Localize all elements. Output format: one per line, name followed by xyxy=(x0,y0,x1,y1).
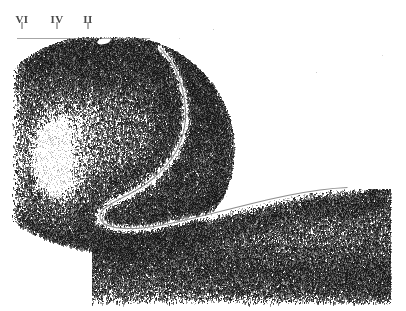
micrograph-canvas xyxy=(0,0,406,311)
histology-figure: VI IV II Nissl-stained coronal section o… xyxy=(0,0,406,311)
